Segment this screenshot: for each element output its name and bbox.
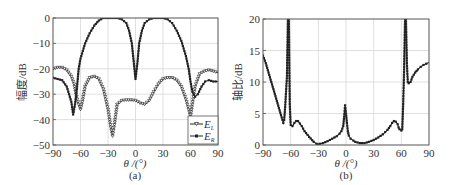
y-tick-label: −10: [33, 37, 51, 49]
chart-b-y-ticks: 20151050: [249, 13, 261, 151]
y-tick-label: −20: [33, 63, 51, 75]
x-tick-label: −60: [72, 147, 90, 159]
y-tick-label: 20: [249, 13, 261, 25]
y-tick-label: 0: [45, 12, 51, 24]
y-tick-label: 15: [249, 45, 261, 57]
chart-a-y-ticks: 0−10−20−30−40−50: [33, 12, 51, 151]
legend-sub-er: R: [210, 137, 215, 143]
chart-a-caption: (a): [129, 169, 142, 182]
x-tick-label: 90: [213, 147, 225, 159]
y-tick-label: 10: [249, 76, 261, 88]
chart-b-axial-ratio: −90−60−300306090 20151050 轴比/dB θ /(°) (…: [231, 13, 435, 182]
x-tick-label: −30: [99, 147, 117, 159]
chart-a-legend: EL ER: [188, 116, 218, 144]
chart-b-y-axis-label: 轴比/dB: [231, 63, 244, 101]
y-tick-label: −40: [33, 114, 51, 126]
chart-a-radiation-pattern: −90−60−300306090 0−10−20−30−40−50 幅度/dB …: [15, 12, 224, 182]
x-tick-label: 60: [185, 147, 197, 159]
y-tick-label: −30: [33, 88, 51, 100]
square-marker-icon: [195, 135, 198, 138]
x-tick-label: 30: [368, 147, 380, 159]
x-tick-label: −30: [310, 147, 328, 159]
x-tick-label: 30: [158, 147, 170, 159]
y-tick-label: −50: [33, 139, 51, 151]
chart-b-caption: (b): [340, 169, 353, 182]
x-tick-label: 60: [396, 147, 408, 159]
y-tick-label: 0: [255, 139, 261, 151]
figure-canvas: −90−60−300306090 0−10−20−30−40−50 幅度/dB …: [0, 0, 450, 185]
x-tick-label: −60: [282, 147, 300, 159]
chart-a-y-axis-label: 幅度/dB: [15, 63, 28, 101]
y-tick-label: 5: [255, 108, 261, 120]
x-tick-label: 90: [424, 147, 436, 159]
